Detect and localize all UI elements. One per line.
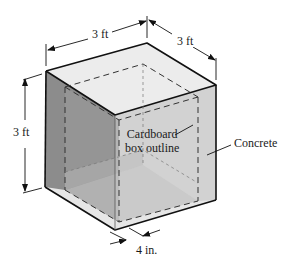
cardboard-label-line2: box outline [125,141,179,155]
concrete-label: Concrete [234,137,277,149]
height-label: 3 ft [11,126,31,138]
dim-thickness [110,228,160,244]
cardboard-label: Cardboard box outline [125,127,179,155]
width-label: 3 ft [90,28,110,40]
thickness-label: 4 in. [136,244,157,256]
depth-label: 3 ft [175,35,195,47]
cardboard-label-line1: Cardboard [125,127,179,141]
